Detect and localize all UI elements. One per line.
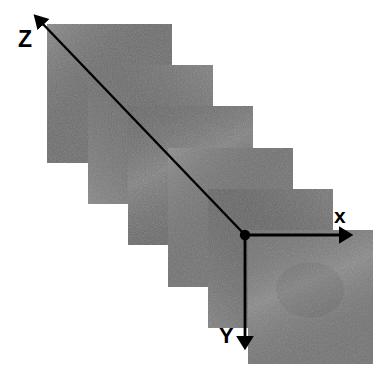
origin-dot [240, 230, 250, 240]
z-axis-label: Z [18, 28, 32, 51]
x-axis-label: x [334, 205, 346, 226]
stack-diagram [0, 0, 390, 383]
slice-6-front [248, 230, 373, 364]
volumetric-stack-figure: Z x Y [0, 0, 390, 383]
y-axis-label: Y [219, 325, 234, 347]
slice-group [47, 24, 373, 364]
